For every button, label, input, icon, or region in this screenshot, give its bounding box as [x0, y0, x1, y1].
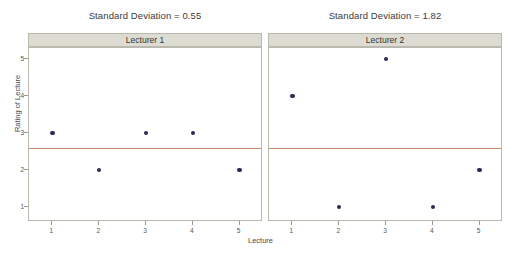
x-axis-tick-mark [479, 221, 480, 225]
data-point [290, 94, 295, 99]
x-axis-tick-mark [192, 221, 193, 225]
data-point [337, 205, 342, 210]
y-axis-tick-mark [24, 169, 28, 170]
panel-title-lecturer-2: Standard Deviation = 1.82 [268, 10, 502, 21]
data-point [237, 168, 242, 173]
y-axis-tick-mark [24, 206, 28, 207]
data-point [384, 57, 389, 62]
data-point [191, 131, 196, 136]
data-point [431, 205, 436, 210]
y-axis-tick-label: 5 [14, 55, 24, 62]
x-axis-tick-label: 1 [44, 227, 58, 234]
mean-reference-line [29, 148, 261, 149]
x-axis-tick-label: 4 [185, 227, 199, 234]
x-axis-tick-label: 5 [232, 227, 246, 234]
x-axis-tick-label: 2 [91, 227, 105, 234]
x-axis-tick-label: 4 [425, 227, 439, 234]
x-axis-tick-mark [239, 221, 240, 225]
y-axis-tick-mark [24, 58, 28, 59]
y-axis-tick-label: 1 [14, 203, 24, 210]
strip-header-lecturer-2: Lecturer 2 [268, 33, 502, 47]
mean-reference-line [269, 148, 501, 149]
data-point [50, 131, 55, 136]
data-point [97, 168, 102, 173]
strip-header-lecturer-1: Lecturer 1 [28, 33, 262, 47]
data-point [144, 131, 149, 136]
panel-title-lecturer-1: Standard Deviation = 0.55 [28, 10, 262, 21]
y-axis-tick-label: 3 [14, 129, 24, 136]
x-axis-label: Lecture [0, 236, 521, 245]
x-axis-tick-mark [432, 221, 433, 225]
y-axis-tick-mark [24, 95, 28, 96]
x-axis-tick-mark [338, 221, 339, 225]
x-axis-tick-mark [385, 221, 386, 225]
strip-label-lecturer-2: Lecturer 2 [366, 35, 404, 45]
plot-panel-lecturer-2 [268, 47, 502, 221]
x-axis-tick-label: 1 [284, 227, 298, 234]
x-axis-tick-label: 3 [138, 227, 152, 234]
x-axis-tick-label: 5 [472, 227, 486, 234]
x-axis-tick-mark [98, 221, 99, 225]
x-axis-tick-mark [291, 221, 292, 225]
x-axis-tick-mark [51, 221, 52, 225]
x-axis-tick-label: 3 [378, 227, 392, 234]
y-axis-tick-label: 4 [14, 92, 24, 99]
y-axis-tick-mark [24, 132, 28, 133]
x-axis-tick-label: 2 [331, 227, 345, 234]
data-point [477, 168, 482, 173]
y-axis-tick-label: 2 [14, 166, 24, 173]
lecture-rating-trellis-chart: Standard Deviation = 0.55 Standard Devia… [0, 0, 521, 255]
x-axis-tick-mark [145, 221, 146, 225]
plot-panel-lecturer-1 [28, 47, 262, 221]
strip-label-lecturer-1: Lecturer 1 [126, 35, 164, 45]
y-axis-label: Rating of Lecture [13, 49, 22, 159]
